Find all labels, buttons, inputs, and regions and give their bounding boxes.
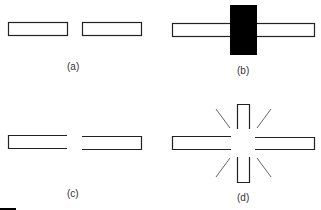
bar-vertical-top [238, 105, 250, 130]
corner-mark [0, 208, 16, 210]
panel-c [9, 136, 142, 150]
bar-horizontal-left [173, 137, 232, 150]
panel-d [173, 105, 315, 183]
panel-b: (b) [173, 5, 315, 76]
panel-a: (a) [9, 23, 142, 73]
bar-left-open [9, 136, 68, 149]
panel-label-b: (b) [237, 65, 249, 76]
bar-horizontal-right [255, 138, 315, 150]
diagram-canvas: (a) (b) (c) (d) [0, 0, 321, 210]
bar-left [9, 23, 68, 36]
panel-label-a: (a) [67, 61, 79, 72]
panel-label-c: (c) [67, 188, 79, 199]
panel-label-d: (d) [237, 192, 249, 203]
bar-right [83, 23, 142, 36]
black-block [230, 5, 257, 55]
bar-right-open [82, 137, 142, 150]
bar-vertical-bottom [238, 157, 250, 183]
radiating-lines [216, 109, 271, 177]
